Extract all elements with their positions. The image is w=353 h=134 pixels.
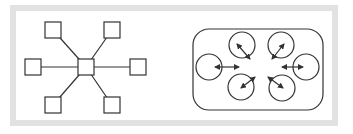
star-node-top-right [104, 22, 120, 38]
star-node-bottom-left [45, 97, 61, 113]
cluster-topology [193, 29, 323, 110]
star-node-right [130, 59, 146, 75]
diagram-canvas [0, 0, 353, 134]
diagram-figure [0, 0, 353, 134]
star-node-top-left [45, 22, 61, 38]
star-node-bottom-right [104, 97, 120, 113]
star-hub-node [78, 59, 94, 75]
cluster-container [193, 29, 323, 110]
star-node-left [25, 59, 41, 75]
